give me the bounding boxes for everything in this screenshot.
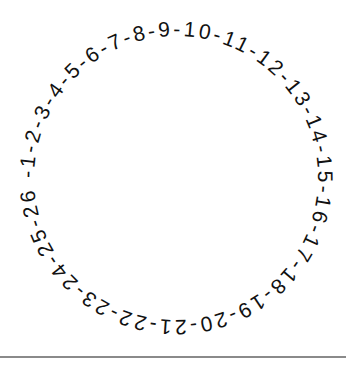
circle-text-svg: -1-2-3-4-5-6-7-8-9-10-11-12-13-14-15-16-…	[0, 0, 346, 365]
circular-number-text: -1-2-3-4-5-6-7-8-9-10-11-12-13-14-15-16-…	[15, 17, 337, 339]
circular-number-figure: -1-2-3-4-5-6-7-8-9-10-11-12-13-14-15-16-…	[0, 0, 346, 365]
bottom-divider-line	[0, 356, 346, 358]
number-sequence-path: -1-2-3-4-5-6-7-8-9-10-11-12-13-14-15-16-…	[15, 17, 337, 339]
